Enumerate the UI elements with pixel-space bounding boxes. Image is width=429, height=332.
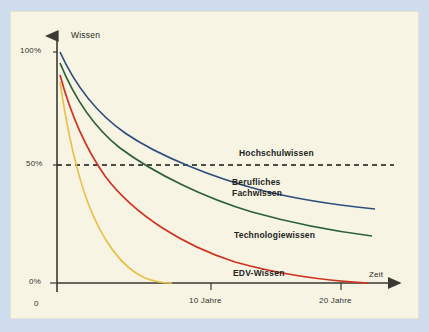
x-tick-label-10-jahre: 10 Jahre — [189, 296, 222, 307]
y-tick-label-0: 0% — [29, 277, 41, 288]
curve-berufliches-fachwissen — [60, 63, 372, 236]
chart-canvas — [0, 0, 429, 332]
curve-technologiewissen — [60, 75, 368, 283]
curve-edv-wissen — [60, 82, 172, 283]
y-tick-label-100: 100% — [20, 46, 41, 57]
x-tick-label-20-jahre: 20 Jahre — [319, 296, 352, 307]
figure-container: Wissen 100% 50% 0% 0 10 Jahre 20 Jahre Z… — [0, 0, 429, 332]
y-axis-title: Wissen — [71, 30, 100, 41]
series-label-berufliches-line1: Berufliches — [232, 177, 281, 187]
series-label-technologiewissen: Technologiewissen — [234, 230, 315, 241]
series-label-berufliches-fachwissen: Berufliches Fachwissen — [232, 177, 282, 198]
y-tick-label-50: 50% — [26, 159, 43, 170]
x-axis-title: Zeit — [369, 270, 383, 281]
series-label-hochschulwissen: Hochschulwissen — [239, 148, 314, 159]
x-axis-origin-label: 0 — [34, 299, 39, 310]
series-label-edv-wissen: EDV-Wissen — [233, 268, 285, 279]
curve-hochschulwissen — [60, 52, 375, 209]
series-label-fachwissen-line2: Fachwissen — [232, 188, 282, 198]
